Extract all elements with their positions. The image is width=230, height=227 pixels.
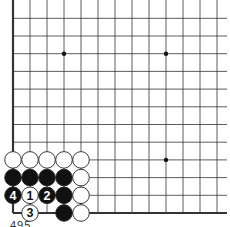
white-stone-icon — [73, 169, 90, 186]
black-stone-icon — [5, 169, 22, 186]
star-point-icon — [62, 52, 66, 56]
white-stone-icon — [39, 152, 56, 169]
black-stone — [22, 169, 39, 186]
move-number-label: 1 — [27, 189, 34, 203]
star-point-icon — [164, 52, 168, 56]
black-stone — [56, 205, 73, 222]
white-stone-icon — [22, 152, 39, 169]
black-stone-icon — [22, 169, 39, 186]
white-stone — [5, 152, 22, 169]
move-number-label: 4 — [10, 189, 17, 203]
black-stone — [56, 187, 73, 204]
diagram-caption: 495 — [10, 220, 31, 227]
white-stone-icon — [56, 152, 73, 169]
black-stone — [39, 169, 56, 186]
black-stone-icon — [39, 169, 56, 186]
white-stone — [73, 187, 90, 204]
black-stone — [5, 169, 22, 186]
white-stone — [73, 205, 90, 222]
white-stone: 1 — [22, 187, 39, 204]
black-stone-icon — [56, 169, 73, 186]
black-stone: 2 — [39, 187, 56, 204]
white-stone-icon — [73, 152, 90, 169]
white-stone-icon — [73, 205, 90, 222]
black-stone — [56, 169, 73, 186]
white-stone — [56, 152, 73, 169]
star-point-icon — [164, 158, 168, 162]
white-stone — [73, 152, 90, 169]
move-number-label: 2 — [44, 189, 51, 203]
white-stone-icon — [73, 187, 90, 204]
black-stone-icon — [56, 187, 73, 204]
go-board: 4123 — [0, 0, 230, 227]
black-stone-icon — [56, 205, 73, 222]
white-stone — [73, 169, 90, 186]
white-stone-icon — [5, 152, 22, 169]
white-stone — [39, 152, 56, 169]
white-stone — [22, 152, 39, 169]
black-stone: 4 — [5, 187, 22, 204]
